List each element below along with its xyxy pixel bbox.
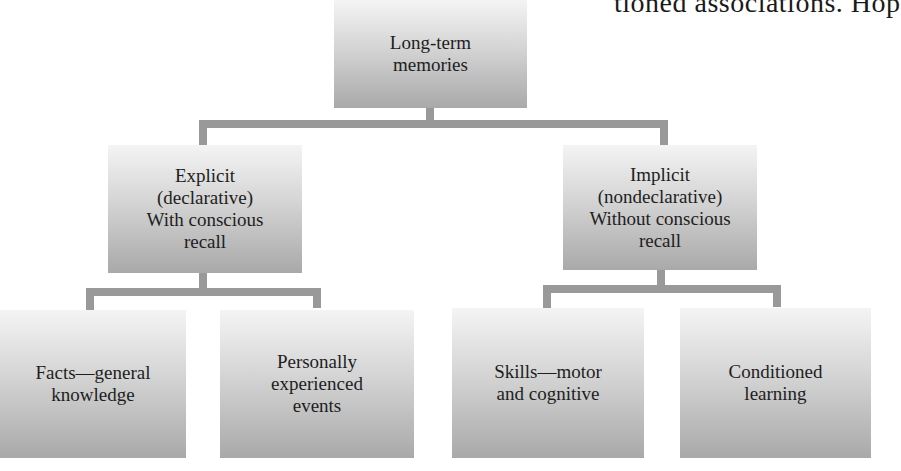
node-label: Long-term memories bbox=[390, 32, 471, 76]
connector-root-right-drop bbox=[660, 120, 668, 145]
node-explicit-memory: Explicit (declarative) With conscious re… bbox=[108, 145, 302, 273]
connector-root-bar bbox=[199, 120, 668, 128]
node-implicit-memory: Implicit (nondeclarative) Without consci… bbox=[563, 145, 757, 270]
node-label: Implicit (nondeclarative) Without consci… bbox=[589, 164, 730, 252]
page-body-text-fragment: tioned associations. Hop bbox=[614, 0, 901, 19]
connector-implicit-left-drop bbox=[543, 285, 551, 308]
connector-implicit-bar bbox=[543, 285, 781, 293]
node-personally-experienced-events: Personally experienced events bbox=[220, 310, 414, 458]
connector-explicit-left-drop bbox=[86, 288, 94, 310]
node-long-term-memories: Long-term memories bbox=[334, 0, 527, 108]
node-label: Personally experienced events bbox=[271, 351, 363, 417]
node-facts-general-knowledge: Facts—general knowledge bbox=[0, 310, 186, 458]
node-label: Facts—general knowledge bbox=[35, 362, 150, 406]
connector-explicit-bar bbox=[86, 288, 321, 296]
connector-root-left-drop bbox=[199, 120, 207, 145]
connector-explicit-right-drop bbox=[313, 288, 321, 308]
node-label: Explicit (declarative) With conscious re… bbox=[147, 165, 264, 253]
node-skills-motor-cognitive: Skills—motor and cognitive bbox=[452, 308, 644, 458]
connector-implicit-right-drop bbox=[773, 285, 781, 307]
node-label: Conditioned learning bbox=[729, 361, 823, 405]
node-label: Skills—motor and cognitive bbox=[494, 361, 602, 405]
node-conditioned-learning: Conditioned learning bbox=[680, 308, 871, 458]
